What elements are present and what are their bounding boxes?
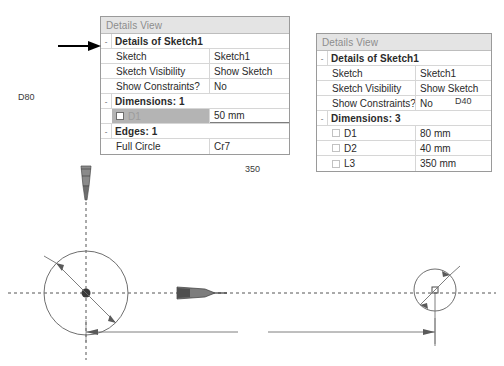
label-d80: D80	[18, 92, 35, 102]
property-name: D2	[344, 143, 357, 154]
property-name: D1	[128, 111, 141, 122]
group-label: Details of Sketch1	[328, 51, 491, 65]
checkbox-icon[interactable]	[116, 112, 124, 120]
vertical-axis-cone-marker	[81, 166, 91, 200]
property-name: Sketch	[328, 66, 416, 80]
property-grid[interactable]: - Details of Sketch1 Sketch Sketch1 Sket…	[101, 34, 289, 154]
property-value[interactable]: No	[210, 79, 289, 93]
property-row-sketch-visibility[interactable]: Sketch Visibility Show Sketch	[317, 81, 491, 96]
property-row-d2[interactable]: D2 40 mm	[317, 141, 491, 156]
property-value[interactable]: Cr7	[210, 139, 289, 154]
screenshot-root: Details View - Details of Sketch1 Sketch…	[0, 0, 504, 366]
property-value[interactable]: No	[416, 96, 491, 110]
group-label: Dimensions: 1	[112, 94, 289, 108]
details-view-panel-left[interactable]: Details View - Details of Sketch1 Sketch…	[100, 16, 290, 155]
property-value[interactable]: 40 mm	[416, 141, 491, 155]
property-value[interactable]: Show Sketch	[416, 81, 491, 95]
row-indent	[317, 126, 328, 140]
group-row-details-of-sketch1[interactable]: - Details of Sketch1	[317, 51, 491, 66]
group-row-edges[interactable]: - Edges: 1	[101, 124, 289, 139]
property-row-show-constraints[interactable]: Show Constraints? No	[101, 79, 289, 94]
property-name: Full Circle	[112, 139, 210, 154]
property-value[interactable]: Sketch1	[416, 66, 491, 80]
property-name: Show Constraints?	[112, 79, 210, 93]
group-row-dimensions[interactable]: - Dimensions: 3	[317, 111, 491, 126]
collapse-icon[interactable]: -	[101, 34, 112, 48]
row-indent	[101, 79, 112, 93]
row-indent	[101, 64, 112, 78]
length-dimension-350[interactable]	[86, 318, 435, 344]
property-name: Sketch Visibility	[328, 81, 416, 95]
property-name-cell[interactable]: D1	[328, 126, 416, 140]
property-name: Sketch Visibility	[112, 64, 210, 78]
checkbox-icon[interactable]	[332, 129, 340, 137]
left-diameter-leader[interactable]	[44, 256, 116, 323]
property-row-d1[interactable]: D1 80 mm	[317, 126, 491, 141]
horizontal-axis-cone-marker	[177, 287, 227, 299]
label-d40: D40	[455, 96, 472, 106]
collapse-icon[interactable]: -	[317, 111, 328, 125]
property-row-full-circle[interactable]: Full Circle Cr7	[101, 139, 289, 154]
group-label: Details of Sketch1	[112, 34, 289, 48]
property-name-cell[interactable]: D2	[328, 141, 416, 155]
pointer-arrow-icon	[58, 40, 102, 52]
row-indent	[101, 109, 112, 123]
cad-drawing-canvas[interactable]	[0, 160, 504, 366]
property-name-cell[interactable]: D1	[112, 109, 210, 123]
property-row-sketch[interactable]: Sketch Sketch1	[317, 66, 491, 81]
group-row-dimensions[interactable]: - Dimensions: 1	[101, 94, 289, 109]
property-name: Show Constraints?	[328, 96, 416, 110]
row-indent	[317, 141, 328, 155]
collapse-icon[interactable]: -	[317, 51, 328, 65]
right-diameter-leader[interactable]	[420, 266, 460, 309]
row-indent	[317, 81, 328, 95]
panel-title: Details View	[317, 34, 491, 51]
group-label: Edges: 1	[112, 124, 289, 138]
group-row-details-of-sketch1[interactable]: - Details of Sketch1	[101, 34, 289, 49]
row-indent	[101, 139, 112, 154]
property-value-input[interactable]: 50 mm	[210, 109, 289, 123]
property-row-sketch-visibility[interactable]: Sketch Visibility Show Sketch	[101, 64, 289, 79]
collapse-icon[interactable]: -	[101, 124, 112, 138]
property-grid[interactable]: - Details of Sketch1 Sketch Sketch1 Sket…	[317, 51, 491, 171]
row-indent	[317, 96, 328, 110]
group-label: Dimensions: 3	[328, 111, 491, 125]
label-350: 350	[242, 164, 263, 174]
property-row-d1[interactable]: D1 50 mm	[101, 109, 289, 124]
panel-title: Details View	[101, 17, 289, 34]
row-indent	[317, 66, 328, 80]
property-name: D1	[344, 128, 357, 139]
row-indent	[101, 49, 112, 63]
checkbox-icon[interactable]	[332, 144, 340, 152]
property-name: Sketch	[112, 49, 210, 63]
property-value[interactable]: 80 mm	[416, 126, 491, 140]
property-value[interactable]: Sketch1	[210, 49, 289, 63]
property-value[interactable]: Show Sketch	[210, 64, 289, 78]
collapse-icon[interactable]: -	[101, 94, 112, 108]
property-row-sketch[interactable]: Sketch Sketch1	[101, 49, 289, 64]
